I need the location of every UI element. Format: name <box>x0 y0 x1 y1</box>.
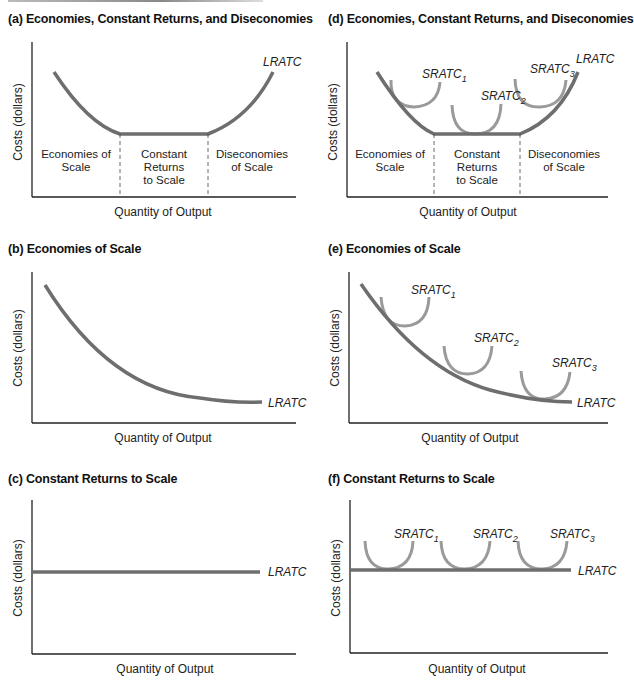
chart-d: LRATC SRATC1 SRATC2 SRATC3 Economies of … <box>320 0 625 230</box>
sratc3-curve <box>521 371 570 399</box>
panel-a: (a) Economies, Constant Returns, and Dis… <box>0 0 305 225</box>
y-axis-label: Costs (dollars) <box>329 539 343 616</box>
y-axis-label: Costs (dollars) <box>11 539 25 616</box>
region-label: Constant <box>454 148 501 160</box>
sratc3-label: SRATC3 <box>552 356 597 373</box>
region-label: Diseconomies <box>528 148 600 160</box>
x-axis-label: Quantity of Output <box>114 205 212 219</box>
x-axis-label: Quantity of Output <box>428 662 526 676</box>
lratc-label: LRATC <box>577 396 616 410</box>
region-label: to Scale <box>143 174 185 186</box>
region-label: Scale <box>62 161 91 173</box>
lratc-label: LRATC <box>268 396 307 410</box>
sratc1-label: SRATC1 <box>394 527 439 544</box>
sratc2-curve <box>441 541 490 569</box>
x-axis-label: Quantity of Output <box>114 431 212 445</box>
panel-f: (f) Constant Returns to Scale LRATC SRAT… <box>320 460 625 681</box>
x-axis-label: Quantity of Output <box>419 205 517 219</box>
chart-b: LRATC Costs (dollars) Quantity of Output <box>0 230 320 450</box>
region-label: Diseconomies <box>216 148 288 160</box>
chart-c: LRATC Costs (dollars) Quantity of Output <box>0 460 320 681</box>
region-label: Scale <box>376 161 405 173</box>
region-label: Constant <box>141 148 188 160</box>
x-axis-label: Quantity of Output <box>421 431 519 445</box>
sratc1-label: SRATC1 <box>422 67 467 84</box>
lratc-curve <box>45 285 262 402</box>
panel-c: (c) Constant Returns to Scale LRATC Cost… <box>0 460 305 681</box>
lratc-curve <box>54 72 273 134</box>
y-axis-label: Costs (dollars) <box>328 309 342 386</box>
x-axis-label: Quantity of Output <box>116 662 214 676</box>
region-label: Returns <box>144 161 185 173</box>
lratc-curve <box>361 284 572 402</box>
panel-b: (b) Economies of Scale LRATC Costs (doll… <box>0 230 305 455</box>
chart-e: LRATC SRATC1 SRATC2 SRATC3 Costs (dollar… <box>320 230 625 450</box>
sratc1-curve <box>365 541 413 569</box>
region-label: of Scale <box>543 161 585 173</box>
sratc2-label: SRATC2 <box>481 89 526 106</box>
region-label: Economies of <box>41 148 111 160</box>
y-axis-label: Costs (dollars) <box>11 309 25 386</box>
lratc-label: LRATC <box>578 564 617 578</box>
lratc-label: LRATC <box>268 565 307 579</box>
panel-d: (d) Economies, Constant Returns, and Dis… <box>320 0 625 225</box>
sratc2-curve <box>444 346 492 374</box>
region-label: Economies of <box>355 148 425 160</box>
chart-f: LRATC SRATC1 SRATC2 SRATC3 Costs (dollar… <box>320 460 625 681</box>
panel-e: (e) Economies of Scale LRATC SRATC1 SRAT… <box>320 230 625 455</box>
region-label: of Scale <box>231 161 273 173</box>
lratc-curve <box>377 72 578 134</box>
y-axis-label: Costs (dollars) <box>326 83 340 160</box>
sratc2-label: SRATC2 <box>474 331 519 348</box>
sratc2-curve <box>452 104 501 134</box>
sratc3-label: SRATC3 <box>530 62 575 79</box>
lratc-label: LRATC <box>263 55 302 69</box>
sratc1-label: SRATC1 <box>411 283 456 300</box>
lratc-label: LRATC <box>576 52 615 66</box>
region-label: to Scale <box>456 174 498 186</box>
region-label: Returns <box>457 161 498 173</box>
sratc2-label: SRATC2 <box>473 527 518 544</box>
sratc3-label: SRATC3 <box>550 527 595 544</box>
chart-a: LRATC Economies of Scale Constant Return… <box>0 0 320 230</box>
sratc3-curve <box>518 541 567 569</box>
y-axis-label: Costs (dollars) <box>11 83 25 160</box>
